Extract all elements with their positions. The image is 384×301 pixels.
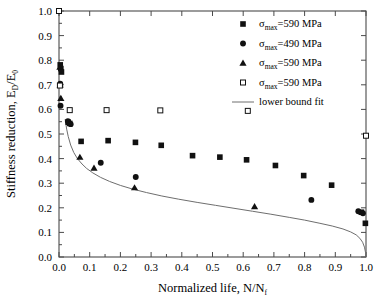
legend-label: σmax=590 MPa <box>259 57 322 71</box>
legend-label: σmax=590 MPa <box>259 77 322 91</box>
y-tick-label: 1.0 <box>38 5 52 17</box>
data-point <box>76 154 83 160</box>
legend-marker-open-square <box>241 80 246 85</box>
legend-item-1: σmax=490 MPa <box>240 38 322 52</box>
x-tick-label: 0.2 <box>114 261 128 273</box>
legend: σmax=590 MPaσmax=490 MPaσmax=590 MPaσmax… <box>232 18 324 107</box>
y-tick-label: 0.1 <box>38 226 52 238</box>
legend-item-0: σmax=590 MPa <box>240 18 322 32</box>
data-point <box>105 138 111 144</box>
data-point <box>363 220 369 226</box>
x-tick-label: 0.1 <box>83 261 97 273</box>
series-2 <box>56 64 258 210</box>
x-tick-label: 0.6 <box>236 261 250 273</box>
data-point <box>190 153 196 159</box>
x-tick-label: 0.9 <box>328 261 342 273</box>
data-point <box>251 203 258 209</box>
y-tick-label: 0.3 <box>38 177 52 189</box>
data-point <box>133 174 139 180</box>
data-point <box>158 143 164 149</box>
legend-label: σmax=590 MPa <box>259 18 322 32</box>
data-point <box>244 157 250 163</box>
data-point <box>68 121 74 127</box>
data-point <box>329 182 335 188</box>
data-point <box>217 154 223 160</box>
y-axis-title: Stiffness reduction, ED/E0 <box>4 70 20 198</box>
x-tick-label: 0.7 <box>267 261 281 273</box>
legend-marker-filled-triangle <box>239 60 246 66</box>
data-point <box>158 108 163 113</box>
data-point <box>301 173 307 179</box>
data-point <box>90 164 97 170</box>
data-point <box>98 160 104 166</box>
data-point <box>59 69 65 75</box>
data-point <box>273 163 279 169</box>
legend-item-4: lower bound fit <box>232 96 324 107</box>
data-point <box>57 9 62 14</box>
legend-marker-filled-square <box>240 21 246 27</box>
y-tick-label: 0.9 <box>38 30 52 42</box>
data-point <box>133 140 139 146</box>
y-tick-label: 0.0 <box>38 251 52 263</box>
data-point <box>360 210 366 216</box>
chart-figure: 0.00.10.20.30.40.50.60.70.80.91.00.00.10… <box>0 0 384 301</box>
y-tick-label: 0.5 <box>38 128 52 140</box>
x-tick-label: 0.0 <box>52 261 66 273</box>
legend-item-2: σmax=590 MPa <box>239 57 322 71</box>
legend-label: lower bound fit <box>259 96 324 107</box>
x-tick-label: 0.8 <box>298 261 312 273</box>
data-point <box>364 133 369 138</box>
data-point <box>67 108 72 113</box>
x-tick-label: 1.0 <box>359 261 373 273</box>
legend-item-3: σmax=590 MPa <box>241 77 323 91</box>
data-point <box>245 108 250 113</box>
y-tick-label: 0.8 <box>38 54 52 66</box>
x-axis-title: Normalized life, N/Nf <box>158 281 268 297</box>
data-point <box>131 184 138 190</box>
y-tick-label: 0.2 <box>38 202 52 214</box>
x-tick-label: 0.5 <box>206 261 220 273</box>
data-point <box>57 95 64 101</box>
plot-axes: 0.00.10.20.30.40.50.60.70.80.91.00.00.10… <box>38 5 373 273</box>
x-tick-label: 0.3 <box>144 261 158 273</box>
y-tick-label: 0.6 <box>38 103 52 115</box>
data-point <box>58 103 64 109</box>
legend-marker-filled-circle <box>240 41 246 47</box>
data-point <box>308 197 314 203</box>
y-tick-label: 0.4 <box>38 153 52 165</box>
y-tick-label: 0.7 <box>38 79 52 91</box>
legend-label: σmax=490 MPa <box>259 38 322 52</box>
x-tick-label: 0.4 <box>175 261 189 273</box>
data-point <box>104 108 109 113</box>
scatter-plot: 0.00.10.20.30.40.50.60.70.80.91.00.00.10… <box>0 0 384 301</box>
data-point <box>78 139 84 145</box>
data-point <box>57 83 62 88</box>
